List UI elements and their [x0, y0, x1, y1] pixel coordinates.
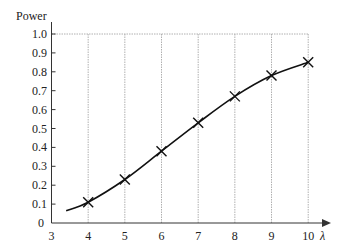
y-tick-label: 0.1 [32, 197, 47, 211]
x-tick-label: 3 [49, 229, 55, 243]
y-tick-label: 0.5 [32, 122, 47, 136]
y-tick-label: 0.3 [32, 159, 47, 173]
grid-lines [52, 34, 309, 223]
y-tick-label: 0 [38, 216, 44, 230]
x-marker-icon [303, 57, 313, 67]
y-tick-label: 0.7 [32, 84, 47, 98]
x-tick-label: 5 [122, 229, 128, 243]
x-marker-icon [120, 175, 130, 185]
x-tick-label: 4 [85, 229, 91, 243]
power-chart: 00.10.20.30.40.50.60.70.80.91.0 34567891… [0, 0, 342, 252]
x-tick-label: 9 [269, 229, 275, 243]
y-tick-label: 0.6 [32, 103, 47, 117]
y-tick-label: 1.0 [32, 27, 47, 41]
y-tick-label: 0.2 [32, 178, 47, 192]
y-axis-title: Power [16, 9, 47, 23]
x-axis-title: λ [319, 229, 325, 243]
y-tick-label: 0.4 [32, 140, 47, 154]
x-tick-label: 7 [195, 229, 201, 243]
x-axis-arrow-icon [322, 219, 331, 227]
axes [52, 22, 332, 227]
x-axis-ticks: 345678910 [49, 229, 315, 243]
x-tick-label: 8 [232, 229, 238, 243]
x-tick-label: 6 [159, 229, 165, 243]
y-tick-label: 0.8 [32, 65, 47, 79]
x-marker-icon [83, 197, 93, 207]
y-tick-label: 0.9 [32, 46, 47, 60]
x-tick-label: 10 [302, 229, 314, 243]
